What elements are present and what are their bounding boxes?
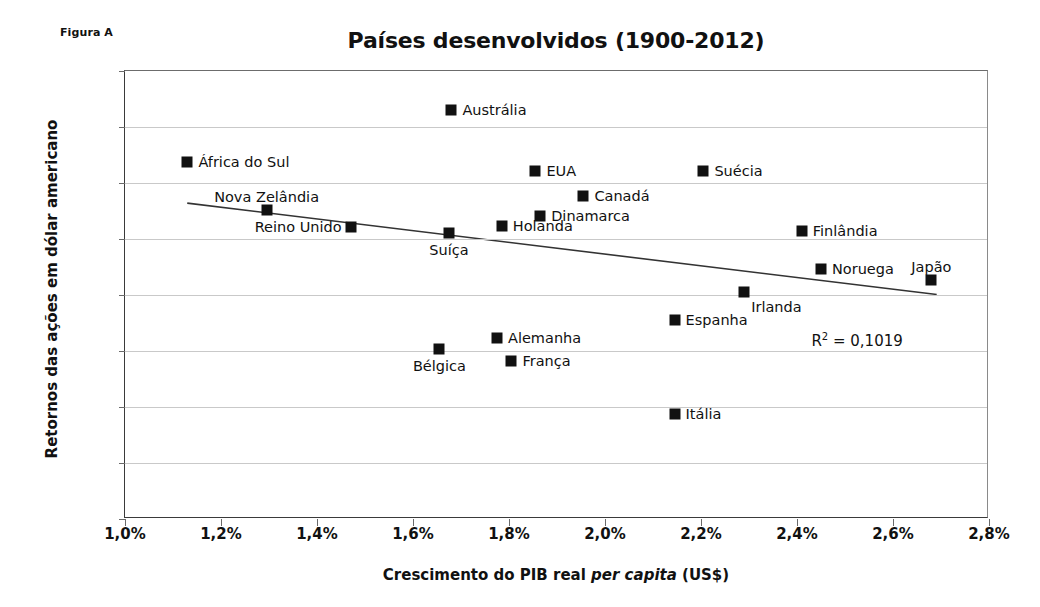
data-point-label: Irlanda [751, 299, 801, 315]
data-point-label: EUA [546, 163, 576, 179]
r-squared-value: = 0,1019 [828, 332, 903, 350]
data-point-label: Reino Unido [255, 219, 342, 235]
x-tick-label: 2,0% [570, 525, 640, 543]
y-tick-mark [119, 463, 125, 464]
data-point-marker [578, 190, 589, 201]
gridline [125, 295, 987, 296]
data-point-label: Itália [686, 406, 722, 422]
figure-caption: Figura A [60, 26, 113, 39]
gridline [125, 183, 987, 184]
chart-title: Países desenvolvidos (1900-2012) [124, 28, 988, 53]
data-point-marker [530, 165, 541, 176]
data-point-label: Canadá [594, 188, 649, 204]
data-point-label: Noruega [832, 261, 894, 277]
data-point-marker [345, 222, 356, 233]
data-point-marker [434, 343, 445, 354]
data-point-marker [739, 286, 750, 297]
gridline [125, 463, 987, 464]
data-point-label: Nova Zelândia [214, 189, 319, 205]
data-point-label: Finlândia [813, 223, 878, 239]
x-tick-label: 1,2% [186, 525, 256, 543]
data-point-label: Alemanha [508, 330, 581, 346]
data-point-marker [492, 333, 503, 344]
gridline [125, 407, 987, 408]
y-tick-mark [119, 239, 125, 240]
y-tick-mark [119, 407, 125, 408]
data-point-marker [816, 264, 827, 275]
y-tick-mark [119, 71, 125, 72]
data-point-marker [261, 205, 272, 216]
data-point-marker [444, 227, 455, 238]
data-point-label: Suíça [429, 242, 468, 258]
gridline [125, 127, 987, 128]
x-tick-label: 1,4% [282, 525, 352, 543]
data-point-marker [926, 274, 937, 285]
x-axis-title-prefix: Crescimento do PIB real [383, 566, 591, 584]
plot-area: 0%1%2%3%4%5%6%7%8%1,0%1,2%1,4%1,6%1,8%2,… [124, 70, 988, 518]
data-point-label: Suécia [714, 163, 762, 179]
r-squared-prefix: R [811, 332, 821, 350]
data-point-marker [796, 226, 807, 237]
data-point-label: Austrália [462, 102, 526, 118]
x-tick-label: 2,8% [954, 525, 1024, 543]
data-point-label: Espanha [686, 312, 748, 328]
data-point-label: Holanda [513, 218, 573, 234]
data-point-marker [446, 105, 457, 116]
data-point-label: França [522, 353, 570, 369]
y-tick-mark [119, 295, 125, 296]
y-tick-mark [119, 183, 125, 184]
x-tick-label: 1,8% [474, 525, 544, 543]
x-axis-title: Crescimento do PIB real per capita (US$) [124, 566, 988, 584]
data-point-label: Bélgica [413, 358, 466, 374]
r-squared-annotation: R2 = 0,1019 [811, 331, 902, 350]
data-point-marker [669, 409, 680, 420]
data-point-label: Japão [911, 259, 951, 275]
y-tick-mark [119, 127, 125, 128]
y-axis-title: Retornos das ações em dólar americano [43, 69, 61, 509]
data-point-marker [506, 355, 517, 366]
x-tick-label: 1,6% [378, 525, 448, 543]
trendline [125, 71, 987, 517]
data-point-marker [669, 315, 680, 326]
data-point-marker [496, 221, 507, 232]
x-axis-title-suffix: (US$) [677, 566, 729, 584]
y-tick-mark [119, 351, 125, 352]
data-point-marker [182, 157, 193, 168]
data-point-label: África do Sul [198, 154, 289, 170]
x-tick-label: 2,2% [666, 525, 736, 543]
x-tick-label: 2,4% [762, 525, 832, 543]
x-tick-label: 1,0% [90, 525, 160, 543]
x-tick-label: 2,6% [858, 525, 928, 543]
x-axis-title-italic: per capita [591, 566, 677, 584]
data-point-marker [698, 165, 709, 176]
